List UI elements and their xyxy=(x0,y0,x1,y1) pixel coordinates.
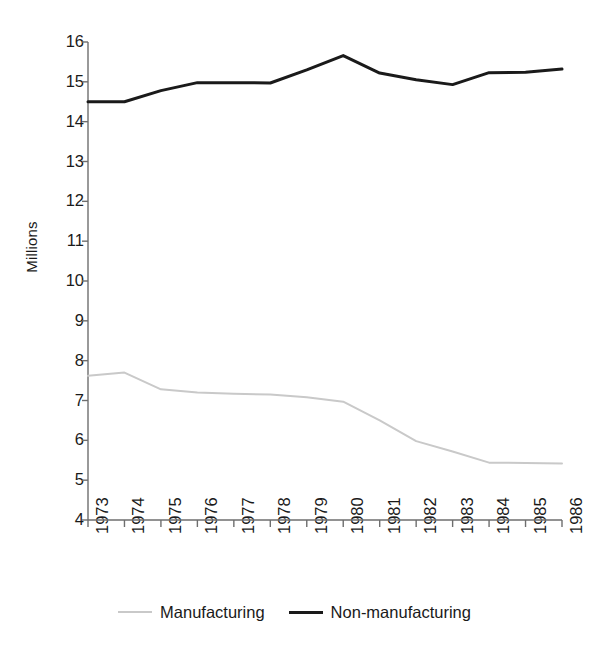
x-axis-ticks xyxy=(88,520,562,527)
line-swatch-icon xyxy=(118,611,152,613)
series-line-manufacturing xyxy=(88,373,562,464)
plot-area xyxy=(0,0,589,657)
line-swatch-icon xyxy=(289,611,323,614)
legend-item-manufacturing[interactable]: Manufacturing xyxy=(118,604,265,621)
axis-lines xyxy=(88,42,562,520)
legend-item-label: Manufacturing xyxy=(160,604,265,621)
legend-item-non-manufacturing[interactable]: Non-manufacturing xyxy=(289,604,471,621)
legend-item-label: Non-manufacturing xyxy=(331,604,471,621)
chart-legend: Manufacturing Non-manufacturing xyxy=(0,604,589,621)
series-lines xyxy=(88,56,562,464)
line-chart: Millions 45678910111213141516 1973197419… xyxy=(0,0,589,657)
y-axis-ticks xyxy=(82,42,88,520)
series-line-non-manufacturing xyxy=(88,56,562,102)
